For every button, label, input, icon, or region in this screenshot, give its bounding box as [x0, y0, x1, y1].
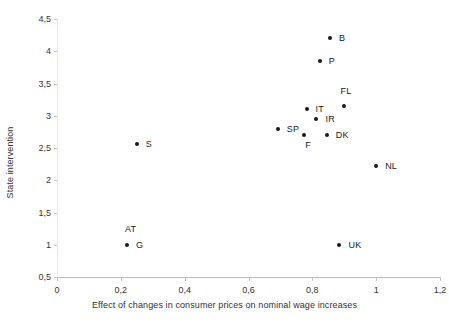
y-tick-label: 3,5 — [38, 79, 51, 89]
data-point-label: G — [136, 240, 143, 250]
data-point — [328, 36, 332, 40]
x-tick-label: 0,4 — [178, 285, 191, 295]
x-tick-label: 0,8 — [306, 285, 319, 295]
x-tick-mark — [249, 277, 250, 281]
data-point-label: NL — [385, 161, 397, 171]
x-tick-mark — [312, 277, 313, 281]
data-point — [337, 243, 341, 247]
y-tick-label: 2,5 — [38, 143, 51, 153]
x-tick-mark — [440, 277, 441, 281]
y-axis-title: State intervention — [2, 0, 18, 325]
x-tick-label: 0,6 — [242, 285, 255, 295]
x-tick-mark — [57, 277, 58, 281]
data-point — [305, 107, 309, 111]
data-point-label: F — [305, 140, 311, 150]
data-point — [276, 127, 280, 131]
data-point-label: SP — [287, 124, 299, 134]
data-point — [135, 142, 139, 146]
data-point — [374, 164, 378, 168]
y-tick-label: 2 — [46, 175, 51, 185]
x-tick-label: 1,2 — [434, 285, 447, 295]
y-tick-label: 0,5 — [38, 272, 51, 282]
data-point-label: AT — [125, 224, 136, 234]
scatter-chart: State intervention 0,511,522,533,544,5 0… — [0, 0, 449, 325]
y-tick-label: 3 — [46, 111, 51, 121]
x-tick-mark — [376, 277, 377, 281]
plot-area: BPFLITIRSPFDKSNLATGUK — [57, 19, 440, 277]
data-point — [325, 133, 329, 137]
data-point-label: IT — [316, 104, 324, 114]
y-tick-label: 1,5 — [38, 208, 51, 218]
data-point-label: DK — [336, 130, 349, 140]
data-point-label: P — [329, 56, 335, 66]
x-tick-label: 0 — [54, 285, 59, 295]
data-point-label: IR — [325, 114, 334, 124]
data-point — [342, 104, 346, 108]
data-point — [314, 117, 318, 121]
x-tick-label: 1 — [374, 285, 379, 295]
data-point-label: S — [146, 139, 152, 149]
x-tick-label: 0,2 — [115, 285, 128, 295]
y-tick-label: 1 — [46, 240, 51, 250]
x-tick-mark — [185, 277, 186, 281]
data-point-label: UK — [348, 240, 361, 250]
data-point — [318, 59, 322, 63]
data-point — [302, 133, 306, 137]
data-point-label: B — [339, 33, 345, 43]
data-point-label: FL — [341, 86, 352, 96]
x-tick-mark — [121, 277, 122, 281]
data-point — [125, 243, 129, 247]
x-axis-title: Effect of changes in consumer prices on … — [0, 300, 449, 310]
y-tick-label: 4 — [46, 46, 51, 56]
y-tick-label: 4,5 — [38, 14, 51, 24]
